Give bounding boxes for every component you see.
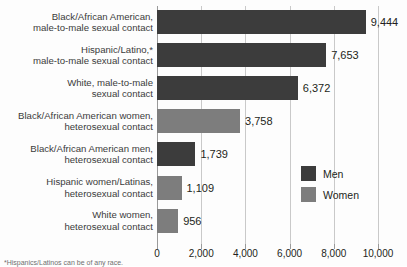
category-label: Hispanic/Latino,* male-to-male sexual co… [3, 44, 153, 67]
bar-1 [157, 10, 366, 34]
x-tick-label: 6,000 [277, 248, 302, 259]
bar-6 [157, 176, 182, 200]
category-label: White women, heterosexual contact [3, 209, 153, 232]
legend-label-men: Men [323, 168, 343, 180]
bar-row: 956 [157, 205, 378, 238]
category-label: Black/African American, male-to-male sex… [3, 11, 153, 34]
x-tick-label: 10,000 [363, 248, 394, 259]
bar-value-label: 6,372 [298, 76, 331, 100]
category-label: Hispanic women/Latinas, heterosexual con… [3, 176, 153, 199]
bar-row: 7,653 [157, 39, 378, 72]
category-label: Black/African American men, heterosexual… [3, 143, 153, 166]
category-label: Black/African American women, heterosexu… [3, 110, 153, 133]
bar-4 [157, 109, 240, 133]
bar-3 [157, 76, 298, 100]
bar-row: 6,372 [157, 72, 378, 105]
bar-value-label: 3,758 [240, 109, 273, 133]
bar-value-label: 1,109 [182, 176, 215, 200]
legend-item-women: Women [301, 187, 359, 202]
legend-swatch-women-icon [301, 187, 316, 202]
bar-row: 9,444 [157, 6, 378, 39]
bar-row: 3,758 [157, 105, 378, 138]
bar-value-label: 9,444 [366, 10, 399, 34]
bar-value-label: 1,739 [195, 142, 228, 166]
legend: Men Women [301, 166, 359, 208]
bar-7 [157, 209, 178, 233]
x-tick-label: 2,000 [189, 248, 214, 259]
x-tick-label: 8,000 [321, 248, 346, 259]
category-label: White, male-to-male sexual contact [3, 77, 153, 100]
gridline-10000 [378, 6, 379, 244]
legend-label-women: Women [323, 189, 359, 201]
bar-5 [157, 142, 195, 166]
x-tick-label: 0 [154, 248, 160, 259]
bar-value-label: 7,653 [326, 43, 359, 67]
x-tick-label: 4,000 [233, 248, 258, 259]
legend-item-men: Men [301, 166, 359, 181]
legend-swatch-men-icon [301, 166, 316, 181]
footnote: *Hispanics/Latinos can be of any race. [4, 259, 123, 267]
bar-value-label: 956 [178, 209, 201, 233]
bar-2 [157, 43, 326, 67]
